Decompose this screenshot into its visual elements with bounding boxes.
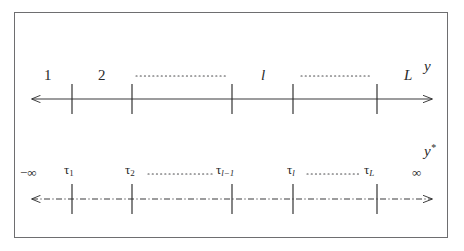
- lower-axis-group: [32, 174, 432, 214]
- category-label-L: L: [404, 68, 412, 83]
- threshold-label-tau-L: τL: [364, 163, 374, 178]
- latent-left-endpoint-label: −∞: [20, 166, 37, 179]
- lower-axis-name: y*: [424, 143, 436, 159]
- lower-axis-name-base: y: [424, 143, 431, 159]
- figure-container: 1 2 l L y −∞ τ1 τ2 τl−1 τl τL ∞ y*: [0, 0, 464, 251]
- tau-subscript-1: 1: [69, 168, 74, 178]
- upper-axis-name: y: [424, 59, 431, 74]
- tau-subscript-l-minus-1: l−1: [221, 168, 234, 178]
- threshold-label-tau-l: τl: [287, 163, 295, 178]
- upper-axis-group: [32, 76, 432, 114]
- threshold-label-tau-2: τ2: [125, 163, 135, 178]
- lower-axis-name-superscript: *: [431, 142, 436, 153]
- tau-subscript-2: 2: [130, 168, 135, 178]
- threshold-label-tau-l-minus-1: τl−1: [216, 163, 234, 178]
- category-label-2: 2: [98, 68, 106, 83]
- tau-subscript-l: l: [292, 168, 295, 178]
- latent-right-endpoint-label: ∞: [412, 166, 421, 179]
- tau-subscript-L: L: [369, 168, 374, 178]
- category-label-1: 1: [44, 68, 52, 83]
- threshold-label-tau-1: τ1: [64, 163, 74, 178]
- axes-drawing: [0, 0, 464, 251]
- category-label-l: l: [261, 68, 265, 83]
